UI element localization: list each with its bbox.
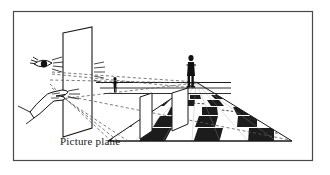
- diagram-canvas: Picture plane: [0, 0, 330, 175]
- perspective-diagram-figure: Picture plane: [0, 0, 330, 175]
- standing-panel-far: [172, 88, 188, 131]
- standing-panel-near: [140, 93, 152, 139]
- picture-plane-caption: Picture plane: [60, 135, 120, 147]
